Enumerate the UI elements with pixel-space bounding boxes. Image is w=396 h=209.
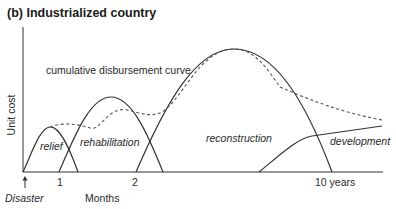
development-curve (259, 126, 382, 172)
relief-label: relief (40, 140, 64, 152)
reconstruction-label: reconstruction (206, 132, 272, 144)
tick-label-2: 2 (132, 176, 138, 188)
phase-cost-diagram: Unit cost relief rehabilitation reconstr… (0, 0, 396, 209)
y-axis-label: Unit cost (5, 95, 17, 136)
tick-label-10-years: 10 years (315, 176, 355, 188)
cumulative-disbursement-curve (50, 49, 382, 128)
arrow-up-icon (23, 176, 28, 188)
development-label: development (330, 135, 391, 147)
x-axis-label: Months (85, 192, 119, 204)
disaster-label: Disaster (5, 192, 44, 204)
tick-label-1: 1 (57, 176, 63, 188)
cumulative-curve-label: cumulative disbursement curve (46, 64, 191, 76)
rehabilitation-label: rehabilitation (80, 136, 140, 148)
rehabilitation-curve (59, 97, 163, 172)
